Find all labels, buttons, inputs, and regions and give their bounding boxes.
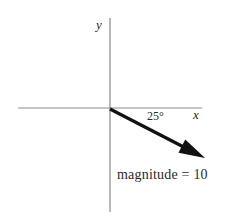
vector-diagram: y x 25° magnitude = 10 xyxy=(0,0,243,219)
x-axis-label: x xyxy=(193,108,199,121)
angle-annotation: 25° xyxy=(147,110,164,122)
y-axis-label: y xyxy=(96,18,102,31)
magnitude-annotation: magnitude = 10 xyxy=(117,168,208,182)
diagram-canvas-svg xyxy=(0,0,243,219)
vector-arrowhead xyxy=(179,139,206,158)
